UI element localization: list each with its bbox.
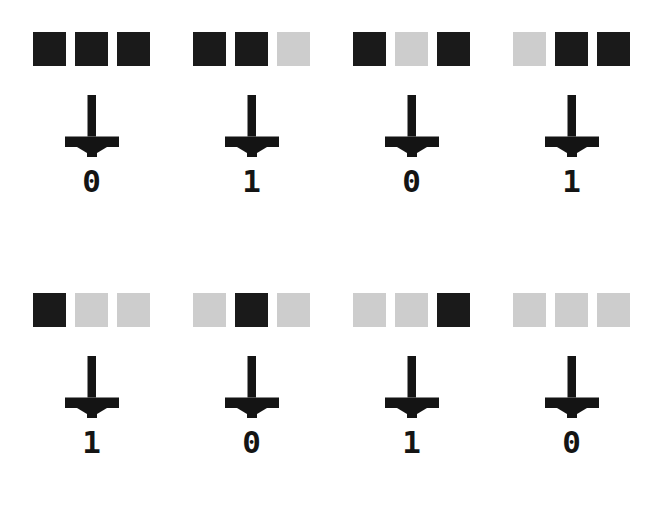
bit-squares (33, 293, 150, 327)
panel-group: 1 (193, 22, 310, 212)
filled-square-icon (437, 293, 470, 327)
down-arrow-icon (223, 95, 281, 157)
bit-squares (193, 293, 310, 327)
panel-group: 0 (353, 22, 470, 212)
empty-square-icon (193, 293, 226, 327)
panel-group: 1 (513, 22, 630, 212)
empty-square-icon (75, 293, 108, 327)
filled-square-icon (437, 32, 470, 66)
filled-square-icon (555, 32, 588, 66)
panel-group: 0 (193, 283, 310, 473)
empty-square-icon (395, 293, 428, 327)
output-digit: 1 (33, 425, 150, 459)
bit-squares (353, 293, 470, 327)
output-digit: 1 (353, 425, 470, 459)
empty-square-icon (513, 293, 546, 327)
empty-square-icon (277, 293, 310, 327)
output-digit: 0 (513, 425, 630, 459)
bit-squares (513, 293, 630, 327)
down-arrow-icon (543, 95, 601, 157)
filled-square-icon (597, 32, 630, 66)
filled-square-icon (117, 32, 150, 66)
panel-group: 1 (33, 283, 150, 473)
bit-squares (193, 32, 310, 66)
empty-square-icon (117, 293, 150, 327)
down-arrow-icon (223, 356, 281, 418)
empty-square-icon (555, 293, 588, 327)
filled-square-icon (75, 32, 108, 66)
down-arrow-icon (383, 95, 441, 157)
filled-square-icon (353, 32, 386, 66)
empty-square-icon (513, 32, 546, 66)
filled-square-icon (33, 293, 66, 327)
output-digit: 0 (33, 164, 150, 198)
down-arrow-icon (383, 356, 441, 418)
output-digit: 1 (513, 164, 630, 198)
panel-group: 0 (33, 22, 150, 212)
output-digit: 0 (353, 164, 470, 198)
figure-canvas: 0 1 (0, 0, 656, 507)
bit-squares (513, 32, 630, 66)
bit-squares (33, 32, 150, 66)
filled-square-icon (33, 32, 66, 66)
empty-square-icon (277, 32, 310, 66)
panel-group: 0 (513, 283, 630, 473)
filled-square-icon (235, 32, 268, 66)
empty-square-icon (353, 293, 386, 327)
filled-square-icon (235, 293, 268, 327)
panel-group: 1 (353, 283, 470, 473)
output-digit: 1 (193, 164, 310, 198)
empty-square-icon (597, 293, 630, 327)
down-arrow-icon (543, 356, 601, 418)
bit-squares (353, 32, 470, 66)
filled-square-icon (193, 32, 226, 66)
down-arrow-icon (63, 356, 121, 418)
empty-square-icon (395, 32, 428, 66)
output-digit: 0 (193, 425, 310, 459)
down-arrow-icon (63, 95, 121, 157)
